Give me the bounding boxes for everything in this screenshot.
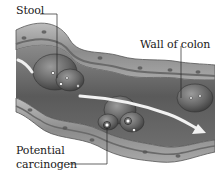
stool-label: Stool bbox=[16, 4, 44, 17]
potential-carcinogen-label-line1: Potential bbox=[16, 144, 65, 157]
potential-carcinogen-label-line2: carcinogen bbox=[16, 158, 77, 171]
colon-diagram: Stool Wall of colon Potential carcinogen bbox=[0, 0, 215, 176]
stool-clump-3 bbox=[177, 84, 213, 112]
wall-of-colon-label: Wall of colon bbox=[140, 38, 210, 51]
